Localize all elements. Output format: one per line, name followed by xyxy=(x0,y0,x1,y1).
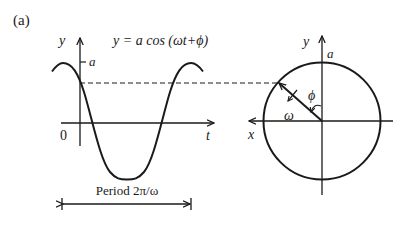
wave-t-axis-label: t xyxy=(206,128,211,143)
phasor-x-axis-label: x xyxy=(247,127,255,142)
angular-velocity-label: ω xyxy=(284,108,294,123)
phase-angle-label: ϕ xyxy=(308,88,315,103)
equation-label: y = a cos (ωt+ϕ) xyxy=(111,33,208,49)
figure-canvas: (a) y = a cos (ωt+ϕ) y a t 0 Period 2π/ω… xyxy=(0,0,404,237)
cosine-curve xyxy=(52,63,203,180)
wave-y-axis-label: y xyxy=(57,33,66,48)
amplitude-label: a xyxy=(89,54,96,69)
phasor-diagram: y x a ω ϕ xyxy=(247,34,393,195)
phasor-y-axis-label: y xyxy=(301,34,310,49)
wave-plot: y a t 0 Period 2π/ω xyxy=(52,33,214,210)
radius-label: a xyxy=(327,46,334,61)
phase-angle-arc-icon xyxy=(311,105,321,112)
period-label: Period 2π/ω xyxy=(96,183,159,198)
origin-label: 0 xyxy=(60,128,67,143)
panel-label: (a) xyxy=(13,12,30,29)
